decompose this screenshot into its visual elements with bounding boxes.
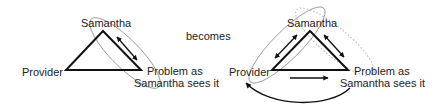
right-triangle [272, 31, 348, 70]
left-problem-label-line1: Problem as [147, 65, 203, 77]
left-problem-label-line2: Samantha sees it [134, 77, 219, 89]
right-provider-label: Provider [229, 66, 270, 78]
becomes-label: becomes [186, 30, 231, 42]
right-problem-label-line1: Problem as [354, 65, 410, 77]
left-provider-label: Provider [22, 66, 63, 78]
left-samantha-label: Samantha [81, 17, 131, 29]
right-curved-return-arrow [246, 83, 350, 102]
right-problem-label-line2: Samantha sees it [340, 77, 425, 89]
right-samantha-label: Samantha [287, 17, 337, 29]
diagram-canvas [0, 0, 437, 109]
